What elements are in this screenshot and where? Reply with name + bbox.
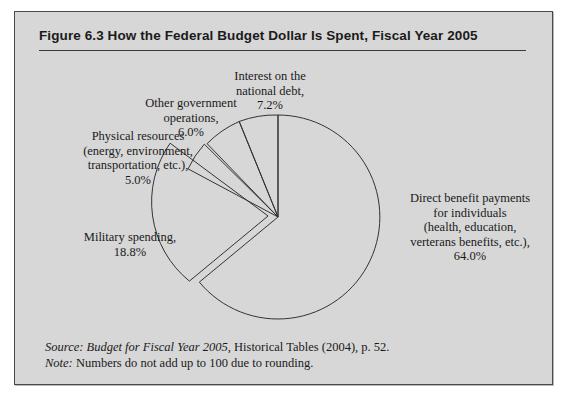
figure-frame: Figure 6.3 How the Federal Budget Dollar… [14, 11, 553, 385]
note-text: Numbers do not add up to 100 due to roun… [73, 356, 314, 370]
pie-label-direct-benefit-payments: Direct benefit payments for individuals … [390, 191, 550, 264]
pie-label-physical-resources: Physical resources (energy, environment,… [53, 129, 223, 187]
figure-source: Source: Budget for Fiscal Year 2005, His… [45, 339, 389, 355]
note-label: Note: [45, 356, 73, 370]
pie-label-military-spending: Military spending, 18.8% [55, 230, 205, 259]
figure-note: Note: Numbers do not add up to 100 due t… [45, 355, 389, 371]
pie-chart: Interest on the national debt, 7.2% Othe… [15, 12, 554, 386]
source-citation: , Historical Tables (2004), p. 52. [228, 340, 390, 354]
pie-slice-direct-benefit-payments [199, 115, 380, 319]
figure-footer: Source: Budget for Fiscal Year 2005, His… [45, 339, 389, 371]
source-title: Budget for Fiscal Year 2005 [87, 340, 228, 354]
source-label: Source: [45, 340, 83, 354]
